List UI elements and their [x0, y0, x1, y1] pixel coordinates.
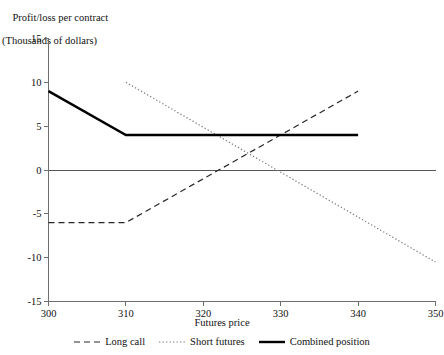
tick-labels: -15-10-5051015300310320330340350 — [28, 33, 444, 318]
data-series — [49, 82, 436, 262]
y-tick-label: 15 — [31, 33, 42, 44]
chart-legend: Long callShort futuresCombined position — [0, 336, 444, 347]
legend-item[interactable]: Combined position — [259, 336, 370, 347]
y-tick-label: 5 — [36, 121, 41, 132]
legend-swatch-solid-icon — [259, 338, 285, 346]
y-tick-label: 0 — [36, 165, 41, 176]
chart-container: Profit/loss per contract (Thousands of d… — [0, 0, 444, 355]
y-tick-label: -15 — [28, 296, 42, 307]
legend-label: Combined position — [290, 336, 370, 347]
y-tick-label: 10 — [31, 77, 42, 88]
y-tick-label: -5 — [33, 208, 42, 219]
series-line — [49, 91, 359, 223]
series-line — [126, 82, 436, 262]
legend-label: Short futures — [190, 336, 245, 347]
y-tick-label: -10 — [28, 252, 42, 263]
series-line — [49, 91, 359, 135]
x-axis-title: Futures price — [0, 317, 444, 328]
plot-area: -15-10-5051015300310320330340350 — [0, 0, 444, 355]
legend-swatch-dotted-icon — [159, 338, 185, 346]
legend-item[interactable]: Long call — [74, 336, 145, 347]
legend-swatch-dashed-icon — [74, 338, 100, 346]
legend-label: Long call — [105, 336, 145, 347]
axes — [44, 39, 436, 307]
legend-item[interactable]: Short futures — [159, 336, 245, 347]
